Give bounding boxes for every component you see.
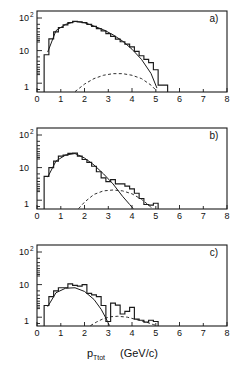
background-curve-b <box>79 190 153 209</box>
y-tick-exponent-2: 2 <box>30 11 34 18</box>
chart-panel-a: 10 2 10 1 0 1 2 3 4 5 6 7 8 <box>0 0 246 117</box>
panel-c-x-ticks <box>37 322 227 326</box>
y-tick-label-1: 1 <box>24 199 29 209</box>
panel-label-c: c) <box>210 247 218 258</box>
x-tick-5: 5 <box>153 94 158 104</box>
x-axis-subscript: Ttot <box>93 354 105 361</box>
panel-b-yaxis-labels: 10 2 10 1 <box>19 128 34 209</box>
x-tick-4: 4 <box>129 211 134 221</box>
panel-b-y-ticks <box>37 135 42 207</box>
x-tick-5: 5 <box>153 328 158 338</box>
y-tick-label-100: 10 <box>19 130 29 140</box>
x-tick-8: 8 <box>224 94 229 104</box>
figure-ptot-distributions: 10 2 10 1 0 1 2 3 4 5 6 7 8 <box>0 0 246 365</box>
panel-c-y-ticks <box>37 252 42 324</box>
x-tick-6: 6 <box>177 94 182 104</box>
panel-a-y-ticks <box>37 18 42 90</box>
panel-b-svg: 10 2 10 1 0 1 2 3 4 5 6 7 8 <box>0 117 246 234</box>
y-tick-label-100: 10 <box>19 13 29 23</box>
panel-c-yaxis-labels: 10 2 10 1 <box>19 245 34 326</box>
y-tick-label-1: 1 <box>24 316 29 326</box>
chart-panel-c: 10 2 10 1 0 1 2 3 4 5 6 7 8 <box>0 234 246 365</box>
panel-a-yaxis-labels: 10 2 10 1 <box>19 11 34 92</box>
panel-c-svg: 10 2 10 1 0 1 2 3 4 5 6 7 8 <box>0 234 246 365</box>
y-tick-label-1: 1 <box>24 82 29 92</box>
x-tick-7: 7 <box>201 94 206 104</box>
fit-curve-b <box>48 154 134 209</box>
x-tick-3: 3 <box>106 211 111 221</box>
y-tick-exponent-2: 2 <box>30 128 34 135</box>
x-tick-7: 7 <box>201 328 206 338</box>
x-tick-3: 3 <box>106 94 111 104</box>
x-tick-5: 5 <box>153 211 158 221</box>
x-tick-0: 0 <box>34 94 39 104</box>
y-tick-label-100: 10 <box>19 247 29 257</box>
panel-label-a: a) <box>210 13 219 24</box>
x-tick-2: 2 <box>82 211 87 221</box>
background-curve-a <box>75 74 157 92</box>
x-tick-1: 1 <box>58 94 63 104</box>
panel-c-frame <box>37 245 227 326</box>
histogram-b <box>44 153 158 209</box>
panel-b-frame <box>37 128 227 209</box>
x-tick-8: 8 <box>224 328 229 338</box>
x-tick-8: 8 <box>224 211 229 221</box>
x-tick-0: 0 <box>34 328 39 338</box>
x-axis-units: (GeV/c) <box>120 347 158 359</box>
x-tick-1: 1 <box>58 211 63 221</box>
panel-a-svg: 10 2 10 1 0 1 2 3 4 5 6 7 8 <box>0 0 246 117</box>
x-tick-4: 4 <box>129 94 134 104</box>
panel-label-b: b) <box>210 130 219 141</box>
x-tick-2: 2 <box>82 328 87 338</box>
y-tick-label-10: 10 <box>19 163 29 173</box>
y-tick-exponent-2: 2 <box>30 245 34 252</box>
y-tick-label-10: 10 <box>19 280 29 290</box>
x-tick-6: 6 <box>177 211 182 221</box>
x-axis-title: p Ttot (GeV/c) <box>87 347 158 361</box>
background-curve-c <box>90 316 157 325</box>
panel-b-x-tick-labels: 0 1 2 3 4 5 6 7 8 <box>34 211 229 221</box>
x-tick-1: 1 <box>58 328 63 338</box>
panel-a-x-ticks <box>37 88 227 92</box>
x-tick-7: 7 <box>201 211 206 221</box>
x-tick-3: 3 <box>106 328 111 338</box>
panel-a-frame <box>37 11 227 92</box>
y-tick-label-10: 10 <box>19 46 29 56</box>
panel-c-x-tick-labels: 0 1 2 3 4 5 6 7 8 <box>34 328 229 338</box>
chart-panel-b: 10 2 10 1 0 1 2 3 4 5 6 7 8 <box>0 117 246 234</box>
panel-a-x-tick-labels: 0 1 2 3 4 5 6 7 8 <box>34 94 229 104</box>
x-tick-0: 0 <box>34 211 39 221</box>
x-tick-4: 4 <box>129 328 134 338</box>
x-tick-6: 6 <box>177 328 182 338</box>
x-tick-2: 2 <box>82 94 87 104</box>
histogram-a <box>44 21 168 92</box>
